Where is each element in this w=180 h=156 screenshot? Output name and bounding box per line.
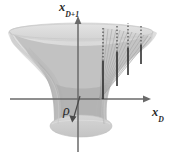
vertical-axis-label: xD+1 [59,1,79,16]
horizontal-axis-label: xD [152,106,164,121]
fan-wedge-shade [100,28,152,99]
hyperboloid-illustration [0,0,180,156]
horizontal-axis-arrowhead [143,96,151,103]
horizontal-axis-label-subscript: D [158,115,164,124]
vertical-axis-label-subscript: D+1 [65,10,79,19]
rho-label: ρ [63,104,70,118]
hyperboloid-figure: xD+1 xD ρ [0,0,180,156]
